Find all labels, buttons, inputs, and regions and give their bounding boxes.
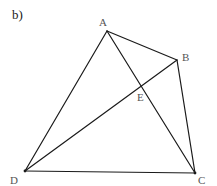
vertex-label-a: A (99, 16, 107, 28)
edges (25, 31, 195, 173)
vertex-dot-d (24, 170, 27, 173)
segment-cd (25, 171, 195, 173)
segment-ab (107, 31, 177, 60)
quadrilateral-diagram: b) A B C D E (0, 0, 217, 186)
vertex-label-c: C (198, 174, 205, 186)
part-label: b) (12, 7, 23, 22)
vertex-dot-c (194, 172, 197, 175)
vertex-label-b: B (182, 51, 189, 63)
segment-bc (177, 60, 195, 173)
segment-bd (25, 60, 177, 171)
segment-da (25, 31, 107, 171)
vertex-label-d: D (10, 174, 18, 186)
intersection-label-e: E (137, 91, 144, 103)
